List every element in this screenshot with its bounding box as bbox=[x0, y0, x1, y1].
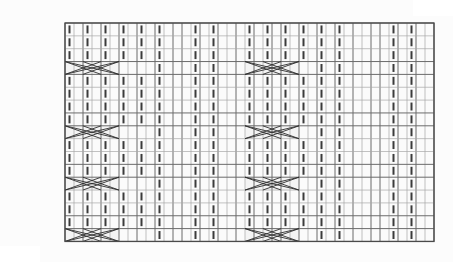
cable-cell-fill bbox=[281, 229, 290, 242]
cable-cell-fill bbox=[74, 62, 83, 75]
cable-cell-fill bbox=[281, 177, 290, 190]
cable-cell-fill bbox=[74, 126, 83, 139]
cable-cell-fill bbox=[74, 229, 83, 242]
cable-cell-fill bbox=[254, 177, 263, 190]
cable-cell-fill bbox=[101, 229, 110, 242]
cable-cell-fill bbox=[254, 62, 263, 75]
cable-cell-fill bbox=[101, 126, 110, 139]
stitch-pattern-chart bbox=[40, 16, 453, 262]
cable-cell-fill bbox=[254, 126, 263, 139]
cable-cell-fill bbox=[101, 62, 110, 75]
cable-cell-fill bbox=[254, 229, 263, 242]
cable-cell-fill bbox=[101, 177, 110, 190]
chart-canvas bbox=[40, 16, 453, 262]
cable-cell-fill bbox=[281, 62, 290, 75]
cable-cell-fill bbox=[74, 177, 83, 190]
cable-cell-fill bbox=[281, 126, 290, 139]
